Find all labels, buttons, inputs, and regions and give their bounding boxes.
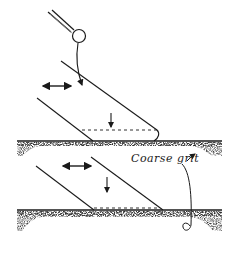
top-panel [17, 10, 222, 156]
push-arrow-icon [77, 43, 82, 85]
sharpening-diagram: Coarse grit [0, 0, 234, 257]
blade-tip-burr [154, 130, 159, 141]
coarse-grit-leader-bottom [182, 164, 191, 230]
finger-pressure-icon [48, 10, 86, 43]
blade-lower-edge [36, 166, 94, 210]
blade-upper-edge [61, 61, 157, 130]
blade-lower-edge [37, 98, 93, 141]
